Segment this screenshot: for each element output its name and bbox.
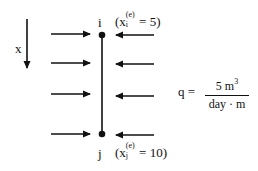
coord-superscript: (e) bbox=[126, 11, 135, 19]
right-flux-arrows bbox=[116, 35, 154, 135]
coord-subscript: i bbox=[126, 21, 128, 29]
coord-indices: (e)j bbox=[126, 146, 136, 159]
fraction-denominator: day · m bbox=[205, 96, 249, 112]
coord-value: = 5) bbox=[139, 14, 160, 29]
node-j-label: j bbox=[98, 147, 102, 160]
coord-prefix: (x bbox=[115, 145, 126, 160]
numerator-exponent: 3 bbox=[234, 77, 238, 86]
flux-fraction: 5 m3 day · m bbox=[205, 77, 249, 112]
node-i-label: i bbox=[98, 16, 102, 29]
x-axis-label: x bbox=[15, 42, 22, 55]
node-i-coordinate: (x(e)i = 5) bbox=[115, 15, 161, 28]
coord-subscript: j bbox=[126, 152, 128, 160]
equation-lhs: q = bbox=[178, 85, 195, 98]
node-j-dot bbox=[99, 131, 106, 138]
coord-indices: (e)i bbox=[126, 15, 136, 28]
fraction-numerator: 5 m3 bbox=[205, 77, 249, 96]
coord-value: = 10) bbox=[139, 145, 167, 160]
left-flux-arrows bbox=[51, 34, 90, 134]
numerator-text: 5 m bbox=[216, 79, 234, 93]
coord-superscript: (e) bbox=[126, 142, 135, 150]
node-j-coordinate: (x(e)j = 10) bbox=[115, 146, 167, 159]
coord-prefix: (x bbox=[115, 14, 126, 29]
node-i-dot bbox=[99, 32, 106, 39]
